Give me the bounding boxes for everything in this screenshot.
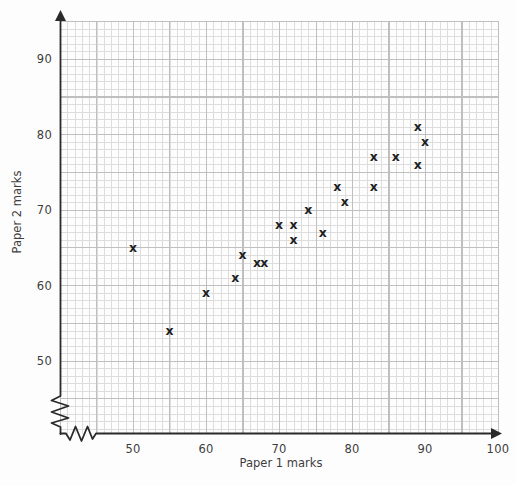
data-point-marker: x xyxy=(319,226,327,239)
y-tick-label: 70 xyxy=(20,203,52,217)
data-point-marker: x xyxy=(202,287,210,300)
data-point-marker: x xyxy=(370,151,378,164)
data-point-marker: x xyxy=(414,158,422,171)
x-axis-line xyxy=(61,427,496,442)
x-axis-title: Paper 1 marks xyxy=(211,456,351,470)
data-point-marker: x xyxy=(165,324,173,337)
x-tick-label: 100 xyxy=(480,442,516,456)
y-axis-arrow-icon xyxy=(55,10,66,21)
x-axis-arrow-icon xyxy=(491,428,502,439)
y-tick-label: 60 xyxy=(20,279,52,293)
axes xyxy=(0,0,516,485)
data-point-marker: x xyxy=(238,249,246,262)
y-tick-label: 50 xyxy=(20,354,52,368)
x-tick-label: 90 xyxy=(407,442,443,456)
y-tick-label: 80 xyxy=(20,128,52,142)
data-point-marker: x xyxy=(304,204,312,217)
y-axis-title: Paper 2 marks xyxy=(10,171,24,254)
data-point-marker: x xyxy=(333,181,341,194)
data-point-marker: x xyxy=(370,181,378,194)
scatter-plot-figure: xxxxxxxxxxxxxxxxxxxx 5060708090100 50607… xyxy=(0,0,516,485)
x-tick-label: 60 xyxy=(188,442,224,456)
data-point-marker: x xyxy=(231,271,239,284)
x-tick-label: 50 xyxy=(115,442,151,456)
y-tick-label: 90 xyxy=(20,52,52,66)
x-tick-label: 70 xyxy=(261,442,297,456)
data-point-marker: x xyxy=(421,136,429,149)
data-point-marker: x xyxy=(290,219,298,232)
data-point-marker: x xyxy=(290,234,298,247)
data-point-marker: x xyxy=(341,196,349,209)
data-point-marker: x xyxy=(275,219,283,232)
y-axis-line xyxy=(52,17,69,434)
data-point-marker: x xyxy=(260,256,268,269)
x-tick-label: 80 xyxy=(334,442,370,456)
data-point-marker: x xyxy=(392,151,400,164)
data-point-marker: x xyxy=(414,120,422,133)
data-point-marker: x xyxy=(129,241,137,254)
